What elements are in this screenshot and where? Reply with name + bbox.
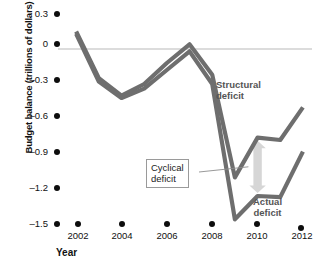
actual-deficit-annotation: Actual deficit (253, 196, 282, 218)
structural-deficit-annotation-line2: deficit (216, 90, 261, 101)
structural-deficit-annotation: Structural deficit (216, 79, 261, 101)
plot-area (0, 0, 317, 275)
actual-deficit-line (76, 34, 303, 220)
structural-deficit-annotation-line1: Structural (216, 79, 261, 90)
cyclical-deficit-annotation-line2: deficit (151, 173, 184, 184)
cyclical-deficit-annotation-box: Cyclical deficit (146, 159, 189, 188)
budget-balance-line-chart: Budget balance (trillions of dollars) Ye… (0, 0, 317, 275)
actual-deficit-annotation-line2: deficit (253, 207, 282, 218)
actual-deficit-annotation-line1: Actual (253, 196, 282, 207)
cyclical-deficit-annotation-line1: Cyclical (151, 162, 184, 173)
